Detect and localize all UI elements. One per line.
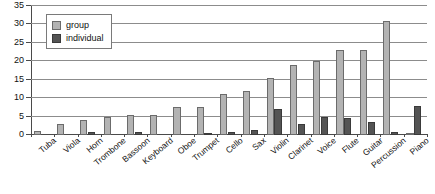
- bar-group: [217, 5, 240, 135]
- bar-individual: [344, 118, 351, 135]
- bar-group: [406, 133, 413, 135]
- bar-group: [241, 5, 264, 135]
- x-axis-tick-mark: [124, 134, 125, 137]
- bar-group: [334, 5, 357, 135]
- chart-legend: group individual: [46, 14, 112, 49]
- bar-group: [127, 115, 134, 135]
- x-axis-tick-mark: [78, 134, 79, 137]
- bar-individual: [204, 133, 211, 135]
- bar-group: [357, 5, 380, 135]
- legend-swatch-group-icon: [52, 21, 61, 30]
- bar-chart: 05101520253035 group individual TubaViol…: [0, 0, 435, 194]
- bar-group: [150, 115, 157, 135]
- legend-item-group: group: [52, 19, 104, 31]
- y-axis-tick-label: 10: [0, 93, 24, 102]
- x-axis-tick-mark: [54, 134, 55, 137]
- bar-group: [336, 50, 343, 135]
- y-axis-tick-label: 25: [0, 38, 24, 47]
- x-axis-tick-mark: [357, 134, 358, 137]
- bar-group: [124, 5, 147, 135]
- bar-individual: [274, 109, 281, 135]
- bar-individual: [414, 106, 421, 135]
- bar-group: [380, 5, 403, 135]
- legend-label-group: group: [66, 21, 89, 30]
- bar-group: [313, 61, 320, 135]
- bar-individual: [368, 122, 375, 135]
- y-axis-tick-label: 15: [0, 75, 24, 84]
- x-axis-tick-mark: [101, 134, 102, 137]
- x-axis-tick-mark: [31, 134, 32, 137]
- x-axis-tick-mark: [264, 134, 265, 137]
- x-axis-tick-label: Tuba: [38, 136, 58, 155]
- bar-group: [194, 5, 217, 135]
- x-axis-tick-label: Flute: [341, 136, 361, 155]
- bar-group: [34, 131, 41, 135]
- bar-group: [104, 117, 111, 135]
- bar-individual: [251, 130, 258, 135]
- bar-individual: [391, 132, 398, 135]
- bar-group: [383, 21, 390, 135]
- y-axis-tick-label: 0: [0, 130, 24, 139]
- x-axis-tick-mark: [311, 134, 312, 137]
- bar-individual: [321, 117, 328, 135]
- y-axis-tick-label: 5: [0, 112, 24, 121]
- bar-individual: [88, 132, 95, 135]
- x-axis-tick-label: Voice: [316, 136, 338, 156]
- bar-group: [267, 78, 274, 135]
- x-axis-tick-mark: [334, 134, 335, 137]
- bar-group: [287, 5, 310, 135]
- bar-group: [147, 5, 170, 135]
- x-axis-tick-mark: [171, 134, 172, 137]
- bar-individual: [135, 132, 142, 135]
- x-axis-tick-mark: [194, 134, 195, 137]
- x-axis-tick-label: Piano: [408, 136, 430, 157]
- x-axis-tick-mark: [287, 134, 288, 137]
- bar-group: [80, 120, 87, 135]
- bar-group: [404, 5, 427, 135]
- x-axis-tick-mark: [147, 134, 148, 137]
- bar-group: [197, 107, 204, 135]
- x-axis-tick-label: Viola: [61, 136, 81, 155]
- bar-individual: [228, 132, 235, 135]
- y-axis-tick-label: 30: [0, 19, 24, 28]
- bar-group: [311, 5, 334, 135]
- x-axis-tick-mark: [427, 134, 428, 137]
- bar-group: [173, 107, 180, 135]
- bar-group: [360, 50, 367, 135]
- bar-individual: [298, 124, 305, 135]
- x-axis-tick-mark: [380, 134, 381, 137]
- x-axis-tick-labels: TubaViolaHornTromboneBassoonKeyboardOboe…: [31, 136, 431, 194]
- bar-group: [57, 124, 64, 135]
- x-axis-tick-label: Sax: [251, 136, 268, 152]
- x-axis-tick-label: Clarinet: [286, 136, 314, 162]
- bar-group: [243, 91, 250, 135]
- x-axis-tick-mark: [217, 134, 218, 137]
- bar-group: [171, 5, 194, 135]
- legend-label-individual: individual: [66, 34, 104, 43]
- bar-group: [290, 65, 297, 135]
- x-axis-tick-mark: [241, 134, 242, 137]
- y-axis-tick-label: 20: [0, 56, 24, 65]
- legend-swatch-individual-icon: [52, 34, 61, 43]
- bar-group: [220, 94, 227, 135]
- legend-item-individual: individual: [52, 32, 104, 44]
- bar-group: [264, 5, 287, 135]
- x-axis-tick-label: Cello: [224, 136, 245, 155]
- y-axis-tick-label: 35: [0, 1, 24, 10]
- x-axis-tick-mark: [404, 134, 405, 137]
